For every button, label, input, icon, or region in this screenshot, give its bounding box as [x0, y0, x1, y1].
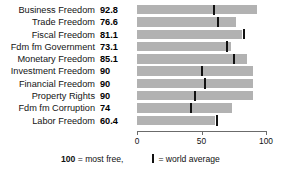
category-label: Property Rights [32, 90, 95, 102]
category-value: 81.1 [100, 29, 118, 41]
legend-most-free-value: 100 [61, 154, 75, 164]
world-average-marker [216, 115, 218, 125]
bar-track [137, 42, 266, 51]
bar-track [137, 5, 266, 14]
category-label: Trade Freedom [32, 16, 95, 28]
value-bar [137, 116, 215, 125]
legend-most-free: 100 = most free, [61, 152, 123, 166]
chart-row: Property Rights90 [0, 90, 282, 102]
bar-track [137, 103, 266, 112]
chart-rows: Business Freedom92.8Trade Freedom76.6Fis… [0, 4, 282, 127]
category-value: 92.8 [100, 4, 118, 16]
category-label: Fdm fm Corruption [18, 102, 95, 114]
category-label: Fdm fm Government [11, 41, 95, 53]
bar-track [137, 17, 266, 26]
value-bar [137, 30, 242, 39]
category-value: 90 [100, 78, 110, 90]
world-average-marker-icon [152, 154, 154, 163]
category-label: Investment Freedom [11, 65, 95, 77]
chart-row: Trade Freedom76.6 [0, 16, 282, 28]
legend-most-free-text: = most free, [75, 154, 123, 164]
bar-track [137, 30, 266, 39]
value-bar [137, 79, 253, 88]
category-label: Financial Freedom [19, 78, 95, 90]
x-axis-tick [266, 131, 267, 135]
legend-world-average-text: = world average [156, 154, 220, 164]
x-axis-tick-label: 100 [259, 136, 273, 146]
category-value: 90 [100, 65, 110, 77]
category-value: 85.1 [100, 53, 118, 65]
chart-row: Fdm fm Corruption74 [0, 102, 282, 114]
category-value: 90 [100, 90, 110, 102]
bar-track [137, 66, 266, 75]
category-value: 74 [100, 102, 110, 114]
bar-track [137, 91, 266, 100]
category-label: Labor Freedom [32, 115, 95, 127]
chart-row: Fdm fm Government73.1 [0, 41, 282, 53]
world-average-marker [217, 17, 219, 27]
category-value: 73.1 [100, 41, 118, 53]
x-axis-tick-label: 0 [135, 136, 140, 146]
x-axis-tick-label: 50 [197, 136, 206, 146]
legend-world-average: = world average [152, 152, 220, 166]
world-average-marker [194, 91, 196, 101]
category-label: Business Freedom [18, 4, 95, 16]
value-bar [137, 5, 257, 14]
world-average-marker [226, 41, 228, 51]
category-label: Fiscal Freedom [32, 29, 95, 41]
x-axis-tick [202, 131, 203, 135]
value-bar [137, 42, 231, 51]
world-average-marker [190, 103, 192, 113]
value-bar [137, 66, 253, 75]
world-average-marker [204, 78, 206, 88]
bar-track [137, 54, 266, 63]
category-label: Monetary Freedom [17, 53, 95, 65]
value-bar [137, 103, 232, 112]
category-value: 76.6 [100, 16, 118, 28]
value-bar [137, 17, 236, 26]
world-average-marker [201, 66, 203, 76]
category-value: 60.4 [100, 115, 118, 127]
chart-row: Monetary Freedom85.1 [0, 53, 282, 65]
chart-row: Fiscal Freedom81.1 [0, 29, 282, 41]
world-average-marker [233, 54, 235, 64]
chart-legend: 100 = most free, = world average [0, 152, 282, 166]
x-axis-tick [137, 131, 138, 135]
chart-row: Labor Freedom60.4 [0, 115, 282, 127]
chart-row: Business Freedom92.8 [0, 4, 282, 16]
chart-row: Financial Freedom90 [0, 78, 282, 90]
value-bar [137, 54, 247, 63]
world-average-marker [243, 29, 245, 39]
chart-row: Investment Freedom90 [0, 65, 282, 77]
bar-track [137, 116, 266, 125]
world-average-marker [213, 5, 215, 15]
freedom-index-bar-chart: Business Freedom92.8Trade Freedom76.6Fis… [0, 0, 282, 172]
bar-track [137, 79, 266, 88]
